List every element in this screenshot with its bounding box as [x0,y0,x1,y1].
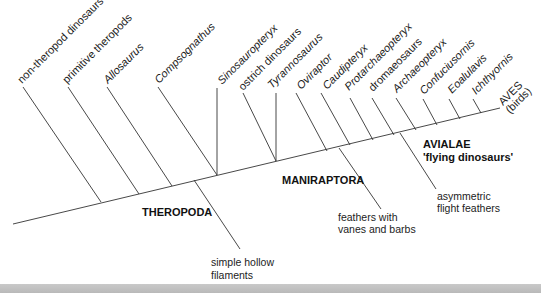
taxon-label-3: Compsognathus [152,20,217,85]
branch-ostrich-dinosaurs [243,93,276,161]
note-vanes-and-barbs: vanes and barbs [338,223,416,235]
note-simple-hollow: simple hollow [211,256,274,268]
branch-archaeopteryx [396,98,416,130]
note-asymmetric: asymmetric [437,190,491,202]
cladogram-figure: non-theropod dinosaurs primitive theropo… [0,0,541,293]
clade-theropoda: THEROPODA [142,206,212,218]
taxon-labels: non-theropod dinosaurs primitive theropo… [15,0,534,115]
note-flight-feathers: flight feathers [437,202,500,214]
branch-eoalulavis [449,99,460,119]
taxon-label-2: Allosaurus [100,40,146,86]
clade-avialae: AVIALAE [423,138,470,150]
tree-lines [13,87,500,249]
clade-avialae-sublabel: 'flying dinosaurs' [423,151,514,163]
character-notes: simple hollow filaments feathers with va… [211,190,500,281]
cladogram-svg: non-theropod dinosaurs primitive theropo… [0,0,541,293]
branch-ichthyornis [473,99,481,113]
taxon-label-0: non-theropod dinosaurs [15,0,106,85]
branch-protarchaeopteryx [350,98,373,140]
branch-allosaurus [107,87,172,186]
main-trunk-line [13,108,500,224]
branch-oviraptor [296,93,327,151]
clade-maniraptora: MANIRAPTORA [282,174,364,186]
branch-compsognathus [158,87,217,175]
branch-primitive-theropods [68,87,139,194]
branch-caudipteryx [321,93,350,145]
branch-dromaeosaurs [372,98,394,135]
bottom-strip [0,284,541,293]
branch-confuciusornis [423,99,437,125]
branch-non-theropod [23,87,101,202]
note-filaments: filaments [211,269,253,281]
note-feathers-with: feathers with [338,211,398,223]
